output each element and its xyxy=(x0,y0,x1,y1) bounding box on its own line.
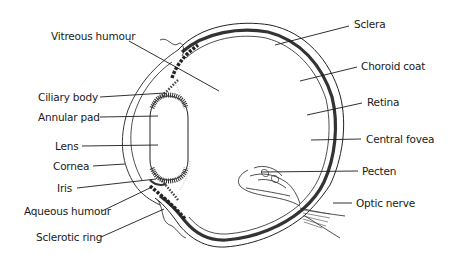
label-choroid-coat: Choroid coat xyxy=(361,60,425,72)
label-sclerotic-ring: Sclerotic ring xyxy=(36,231,102,243)
label-annular-pad: Annular pad xyxy=(38,111,100,123)
label-ciliary-body: Ciliary body xyxy=(38,91,98,103)
label-optic-nerve: Optic nerve xyxy=(356,197,415,209)
label-sclera: Sclera xyxy=(354,18,385,30)
label-central-fovea: Central fovea xyxy=(366,133,434,145)
label-vitreous-humour: Vitreous humour xyxy=(51,30,135,42)
label-aqueous-humour: Aqueous humour xyxy=(24,205,111,217)
label-iris: Iris xyxy=(57,182,72,194)
label-cornea: Cornea xyxy=(53,160,89,172)
label-lens: Lens xyxy=(55,140,78,152)
eye-diagram: Vitreous humour Ciliary body Annular pad… xyxy=(0,0,453,265)
label-pecten: Pecten xyxy=(362,165,396,177)
label-retina: Retina xyxy=(367,96,399,108)
